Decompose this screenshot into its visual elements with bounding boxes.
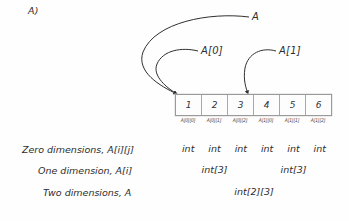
row-one-types: int[3] int[3]: [175, 164, 333, 175]
row-zero-description: Zero dimensions, A[i][j]: [22, 144, 134, 155]
arrow-A: [142, 16, 249, 94]
type-value: int[2][3]: [175, 186, 333, 197]
type-value: int: [254, 143, 280, 154]
array-cell: 6: [306, 95, 331, 115]
row-two-description: Two dimensions, A: [43, 187, 131, 198]
type-value: int: [228, 143, 254, 154]
pointer-label-A0: A[0]: [201, 45, 223, 56]
arrow-A1: [244, 50, 276, 94]
row-one-description: One dimension, A[i]: [38, 165, 132, 176]
array-index-label: A[1][1]: [279, 118, 305, 124]
array-cell: 3: [228, 95, 254, 115]
array-index-label: A[1][2]: [305, 118, 331, 124]
row-one-dimension: One dimension, A[i] int[3] int[3]: [0, 164, 349, 180]
array-index-label: A[0][2]: [227, 118, 253, 124]
array-index-label: A[1][0]: [253, 118, 279, 124]
pointer-label-A: A: [252, 11, 259, 22]
type-value: int[3]: [175, 164, 254, 175]
row-zero-types: int int int int int int: [175, 143, 333, 154]
row-zero-dimensions: Zero dimensions, A[i][j] int int int int…: [0, 143, 349, 159]
array-cell: 5: [280, 95, 306, 115]
array-memory-diagram: A) A A[0] A[1] 1 2 3 4 5 6 A[0][0] A[0][…: [0, 0, 349, 221]
row-two-dimensions: Two dimensions, A int[2][3]: [0, 186, 349, 202]
pointer-label-A1: A[1]: [279, 45, 301, 56]
type-value: int[3]: [254, 164, 333, 175]
array-cell: 4: [254, 95, 280, 115]
array-cells: 1 2 3 4 5 6: [175, 94, 332, 116]
array-cell: 2: [202, 95, 228, 115]
row-two-types: int[2][3]: [175, 186, 333, 197]
arrow-A0: [156, 49, 198, 94]
type-value: int: [307, 143, 333, 154]
array-index-labels: A[0][0] A[0][1] A[0][2] A[1][0] A[1][1] …: [175, 118, 331, 123]
array-index-label: A[0][0]: [175, 118, 201, 124]
array-cell: 1: [176, 95, 202, 115]
type-value: int: [201, 143, 227, 154]
array-index-label: A[0][1]: [201, 118, 227, 124]
type-value: int: [175, 143, 201, 154]
type-value: int: [280, 143, 306, 154]
